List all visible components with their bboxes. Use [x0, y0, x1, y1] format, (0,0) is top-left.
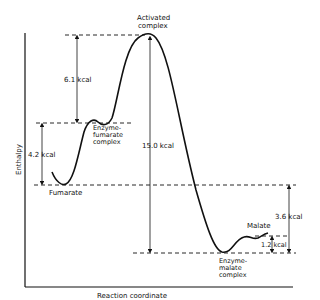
- energy-diagram: Activated complex 6.1 kcal 4.2 kcal 15.0…: [0, 0, 320, 300]
- gap-4-2-label: 4.2 kcal: [28, 151, 56, 159]
- gap-1-2-label: 1.2 kcal: [261, 241, 287, 249]
- activated-complex-label-2: complex: [138, 22, 168, 30]
- gap-6-1-label: 6.1 kcal: [64, 76, 92, 84]
- gap-3-6-label: 3.6 kcal: [275, 213, 303, 221]
- enzyme-malate-label-3: complex: [219, 271, 247, 279]
- x-axis-label: Reaction coordinate: [97, 292, 167, 300]
- malate-label: Malate: [247, 222, 271, 230]
- gap-15-0-label: 15.0 kcal: [142, 142, 174, 150]
- y-axis-label: Enthalpy: [15, 144, 23, 175]
- activated-complex-label-1: Activated: [137, 14, 170, 22]
- fumarate-label: Fumarate: [49, 189, 82, 197]
- enzyme-fumarate-label-3: complex: [93, 138, 121, 146]
